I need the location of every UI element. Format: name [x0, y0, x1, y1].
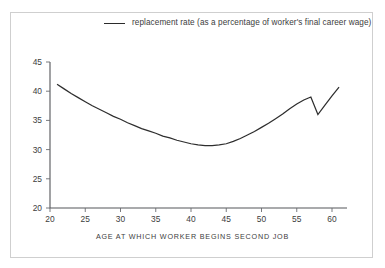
x-tick-label: 25: [81, 214, 91, 224]
y-tick-label: 45: [33, 57, 43, 67]
x-tick-label: 35: [151, 214, 161, 224]
x-tick-label: 50: [257, 214, 267, 224]
y-tick-group: 202530354045: [33, 57, 50, 213]
y-tick-label: 30: [33, 145, 43, 155]
axis-lines: [50, 62, 347, 208]
x-tick-label: 55: [292, 214, 302, 224]
x-tick-label: 40: [186, 214, 196, 224]
series-line-replacement-rate: [57, 84, 339, 145]
plot-area: 202530354045 202530354045505560: [0, 0, 385, 268]
x-tick-label: 45: [222, 214, 232, 224]
x-tick-label: 30: [116, 214, 126, 224]
y-tick-label: 25: [33, 174, 43, 184]
x-tick-group: 202530354045505560: [45, 208, 337, 224]
x-tick-label: 60: [327, 214, 337, 224]
y-tick-label: 20: [33, 203, 43, 213]
x-tick-label: 20: [45, 214, 55, 224]
chart-figure: replacement rate (as a percentage of wor…: [0, 0, 385, 268]
y-tick-label: 40: [33, 86, 43, 96]
series-group: [57, 84, 339, 145]
x-axis-title: AGE AT WHICH WORKER BEGINS SECOND JOB: [0, 232, 385, 241]
y-tick-label: 35: [33, 115, 43, 125]
axes-group: [50, 62, 347, 208]
